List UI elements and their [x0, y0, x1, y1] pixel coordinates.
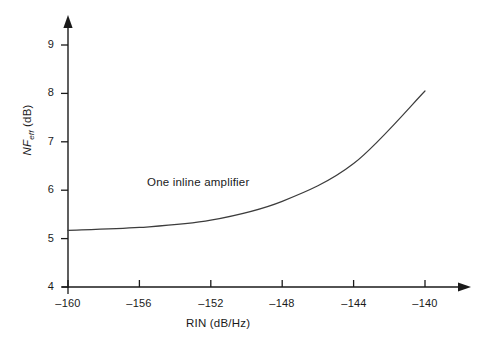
y-axis-label-unit: (dB)	[21, 104, 33, 130]
data-series-line	[68, 91, 425, 230]
y-tick-label-5: 5	[30, 232, 54, 244]
series-annotation-label: One inline amplifier	[147, 176, 249, 188]
x-tick-label-152: –152	[186, 297, 236, 309]
y-tick-label-6: 6	[30, 183, 54, 195]
x-tick-label-160: –160	[43, 297, 93, 309]
y-axis-label-main: NF	[21, 140, 33, 156]
y-axis-label-subscript: eff	[27, 130, 36, 140]
x-axis-label: RIN (dB/Hz)	[186, 317, 250, 329]
x-tick-label-156: –156	[114, 297, 164, 309]
y-tick-label-4: 4	[30, 280, 54, 292]
x-tick-label-148: –148	[257, 297, 307, 309]
y-axis-ticks	[61, 45, 68, 287]
plot-area	[0, 0, 492, 344]
x-tick-label-144: –144	[329, 297, 379, 309]
x-axis-arrow-icon	[458, 282, 471, 291]
y-axis-label-container: NFeff (dB)	[17, 90, 37, 170]
y-axis-arrow-icon	[63, 15, 72, 28]
x-tick-label-140: –140	[400, 297, 450, 309]
y-tick-label-9: 9	[30, 38, 54, 50]
y-axis-label: NFeff (dB)	[21, 104, 33, 155]
chart-figure: 9 8 7 6 5 4 –160 –156 –152 –148 –144 –14…	[0, 0, 492, 344]
